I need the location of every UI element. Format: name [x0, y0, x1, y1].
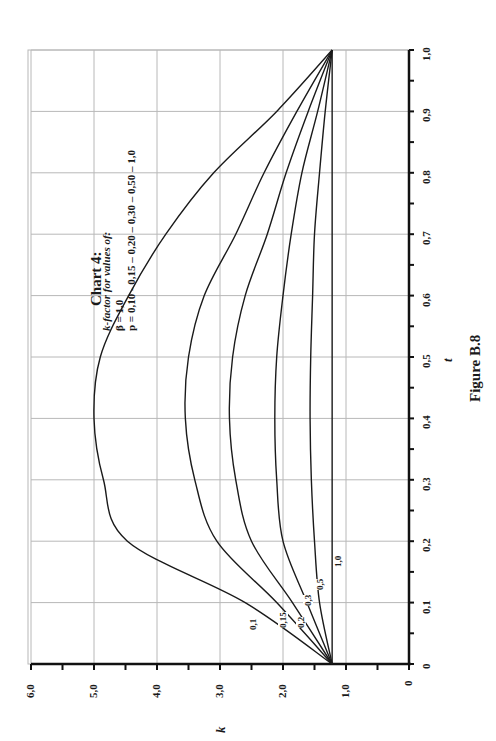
grid-lines	[31, 50, 409, 664]
t-tick-label: 0,6	[420, 293, 432, 307]
t-tick-label: 0,7	[420, 231, 432, 245]
t-tick-label: 0,4	[420, 416, 432, 430]
t-tick-label: 0	[420, 664, 432, 670]
t-tick-label: 0,2	[420, 538, 432, 552]
t-tick-label: 1,0	[420, 47, 432, 61]
k-tick-label: 0	[402, 681, 414, 687]
t-tick-label: 0,9	[420, 109, 432, 123]
t-tick-label: 0,1	[420, 600, 432, 614]
k-tick-label: 2,0	[276, 684, 288, 698]
t-tick-label: 0,5	[420, 354, 432, 368]
k-tick-label: 6,0	[24, 684, 36, 698]
curve-label: 0,1	[248, 619, 258, 630]
k-tick-label: 3,0	[213, 684, 225, 698]
curve-label: 1,0	[333, 556, 343, 567]
chart-subtitle-line-2: β = 1,0	[113, 300, 125, 331]
curve-label: 0,2	[296, 617, 306, 628]
curve-label: 0,5	[315, 579, 325, 590]
k-tick-label: 1,0	[339, 684, 351, 698]
chart-subtitle-line-3: p = 0,10 - 0,15 – 0,20 – 0,30 – 0,50 – 1…	[125, 150, 137, 331]
axes	[31, 50, 414, 670]
curve-label: 0,3	[303, 595, 313, 606]
k-tick-label: 4,0	[150, 684, 162, 698]
x-axis-label: t	[440, 358, 456, 362]
t-tick-label: 0,3	[420, 477, 432, 491]
figure-caption: Figure B.8	[467, 335, 484, 402]
k-tick-label: 5,0	[87, 684, 99, 698]
chart-subtitle-line-1: k-factor for values of:	[100, 232, 112, 331]
curve-label: 0,15	[278, 612, 288, 628]
y-axis-label: k	[213, 727, 229, 734]
t-tick-label: 0,8	[420, 170, 432, 184]
